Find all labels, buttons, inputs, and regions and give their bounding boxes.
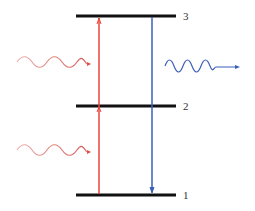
level-3-label: 3: [183, 11, 189, 22]
level-1-label: 1: [183, 190, 189, 201]
energy-level-diagram: [0, 0, 255, 211]
emitted-photon-icon: [165, 60, 240, 72]
level-2-label: 2: [183, 101, 189, 112]
incoming-photon-lower-icon: [17, 145, 91, 156]
incoming-photon-upper-icon: [17, 57, 91, 68]
